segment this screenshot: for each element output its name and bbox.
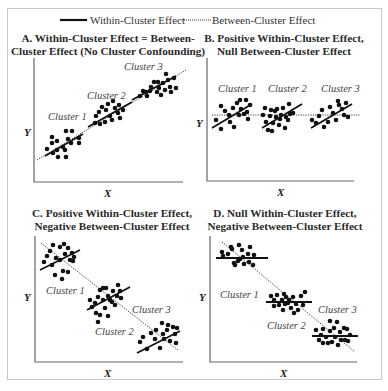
data-point — [45, 254, 50, 259]
cluster-effects-figure: Within-Cluster Effect Between-Cluster Ef… — [0, 0, 388, 391]
data-point — [232, 261, 237, 266]
data-point — [98, 313, 103, 318]
data-point — [53, 273, 58, 278]
data-point — [55, 139, 60, 144]
panel-b-cluster-1-label: Cluster 1 — [218, 83, 257, 94]
data-point — [97, 110, 102, 115]
within-legend-label: Within-Cluster Effect — [90, 14, 185, 26]
panel-d-cluster-2-label: Cluster 2 — [267, 320, 307, 331]
data-point — [330, 340, 335, 345]
data-point — [72, 255, 77, 260]
data-point — [272, 304, 277, 309]
data-point — [269, 108, 274, 113]
data-point — [220, 250, 225, 255]
data-point — [246, 252, 251, 257]
data-point — [337, 103, 342, 108]
data-point — [281, 308, 286, 313]
data-point — [158, 346, 163, 351]
data-point — [106, 102, 111, 107]
data-point — [291, 295, 296, 300]
data-point — [328, 319, 333, 324]
data-point — [88, 298, 93, 303]
data-point — [317, 114, 322, 119]
data-point — [245, 110, 250, 115]
data-point — [289, 306, 294, 311]
data-point — [154, 328, 159, 333]
data-point — [296, 308, 301, 313]
data-point — [269, 294, 274, 299]
data-point — [171, 325, 176, 330]
data-point — [45, 147, 50, 152]
data-point — [119, 296, 124, 301]
data-point — [156, 80, 161, 85]
data-point — [168, 339, 173, 344]
data-point — [252, 253, 257, 258]
data-point — [42, 260, 47, 265]
panel-c-title-line2: Negative Between-Cluster Effect — [34, 220, 189, 232]
data-point — [268, 114, 273, 119]
data-point — [219, 127, 224, 132]
data-point — [117, 103, 122, 108]
data-point — [317, 338, 322, 343]
panel-d-y-label: Y — [199, 291, 207, 303]
data-point — [292, 311, 297, 316]
data-point — [77, 141, 82, 146]
data-point — [321, 327, 326, 332]
data-point — [277, 123, 282, 128]
data-point — [339, 338, 344, 343]
panel-d-x-label: X — [279, 367, 288, 379]
data-point — [334, 118, 339, 123]
data-point — [161, 332, 166, 337]
data-point — [247, 260, 252, 265]
data-point — [104, 286, 109, 291]
data-point — [320, 108, 325, 113]
data-point — [56, 155, 61, 160]
panel-c-title-line1: C. Positive Within-Cluster Effect, — [32, 207, 192, 219]
data-point — [51, 243, 56, 248]
panel-c-cluster-2-label: Cluster 2 — [95, 326, 135, 337]
data-point — [159, 93, 164, 98]
data-point — [328, 105, 333, 110]
data-point — [228, 120, 233, 125]
panel-d-title-line1: D. Null Within-Cluster Effect, — [213, 207, 356, 219]
data-point — [336, 99, 341, 104]
data-point — [54, 256, 59, 261]
data-point — [310, 118, 315, 123]
data-point — [71, 259, 76, 264]
data-point — [345, 327, 350, 332]
panel-a-title-line1: A. Within-Cluster Effect = Between- — [21, 32, 195, 44]
data-point — [246, 117, 251, 122]
data-point — [230, 247, 235, 252]
data-point — [64, 155, 69, 160]
data-point — [223, 109, 228, 114]
panel-b-title-line2: Null Between-Cluster Effect — [217, 45, 351, 57]
data-point — [321, 341, 326, 346]
data-point — [164, 72, 169, 77]
data-point — [303, 290, 308, 295]
data-point — [155, 90, 160, 95]
data-point — [63, 252, 68, 257]
data-point — [70, 129, 75, 134]
panel-d-title-line2: Negative Between-Cluster Effect — [207, 220, 362, 232]
data-point — [111, 99, 116, 104]
panel-a-title-line2: Cluster Effect (No Cluster Confounding) — [11, 45, 205, 58]
panel-a-x-label: X — [103, 187, 112, 199]
data-point — [163, 88, 168, 93]
data-point — [314, 328, 319, 333]
data-point — [106, 314, 111, 319]
data-point — [281, 106, 286, 111]
data-point — [169, 90, 174, 95]
data-point — [66, 137, 71, 142]
panel-b-cluster-2-label: Cluster 2 — [268, 83, 308, 94]
data-point — [342, 113, 347, 118]
data-point — [110, 118, 115, 123]
data-point — [111, 289, 116, 294]
data-point — [287, 102, 292, 107]
data-point — [160, 321, 165, 326]
panel-a-y-label: Y — [24, 126, 32, 138]
data-point — [48, 249, 53, 254]
data-point — [226, 252, 231, 257]
data-point — [275, 107, 280, 112]
data-point — [244, 98, 249, 103]
panel-a-cluster-3-label: Cluster 3 — [124, 61, 163, 72]
